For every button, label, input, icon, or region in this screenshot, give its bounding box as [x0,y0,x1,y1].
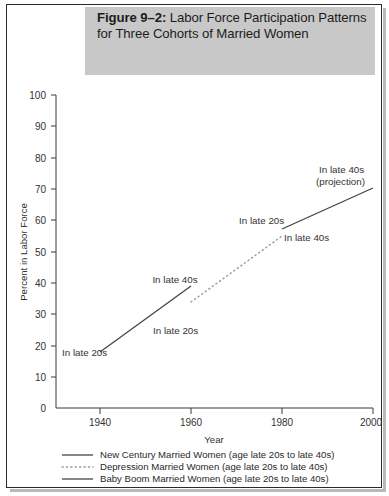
legend-label-baby-boom: Baby Boom Married Women (age late 20s to… [100,473,329,484]
y-axis-ticks [51,95,56,377]
annotation-new-century-late20s: In late 20s [62,347,107,358]
chart-canvas: 100 90 80 70 60 50 40 30 20 10 0 Percent… [0,0,389,496]
y-tick-label: 20 [35,341,47,352]
chart-legend: New Century Married Women (age late 20s … [62,449,334,484]
y-axis-tick-labels: 100 90 80 70 60 50 40 30 20 10 0 [29,90,46,414]
y-tick-label: 80 [35,153,47,164]
series-line-new-century [100,286,191,352]
legend-label-depression: Depression Married Women (age late 20s t… [100,461,328,472]
x-tick-label: 1940 [89,417,112,428]
x-tick-label: 1960 [180,417,203,428]
annotation-new-century-late40s: In late 40s [152,274,197,285]
axis-lines [56,95,373,408]
y-tick-label: 90 [35,121,47,132]
y-tick-label: 70 [35,184,47,195]
y-tick-label: 40 [35,278,47,289]
chart-svg: 100 90 80 70 60 50 40 30 20 10 0 Percent… [0,0,389,496]
x-axis-title: Year [204,434,224,445]
series-line-baby-boom [282,188,373,229]
series-line-depression [191,236,282,302]
annotation-babyboom-projection: (projection) [316,176,365,187]
annotation-babyboom-late40s: In late 40s [319,164,364,175]
annotation-depression-late20s: In late 20s [153,325,198,336]
y-tick-label: 50 [35,247,47,258]
y-tick-label: 100 [29,90,46,101]
y-axis-title: Percent in Labor Force [18,203,29,301]
figure-root: Figure 9–2: Labor Force Participation Pa… [0,0,389,496]
y-tick-label: 0 [40,403,46,414]
y-tick-label: 30 [35,309,47,320]
y-tick-label: 10 [35,372,47,383]
x-axis-tick-labels: 1940 1960 1980 2000 [89,417,383,428]
annotation-babyboom-late20s: In late 20s [239,215,284,226]
annotation-depression-late40s: In late 40s [284,232,329,243]
legend-label-new-century: New Century Married Women (age late 20s … [100,449,334,460]
x-tick-label: 2000 [360,417,383,428]
y-tick-label: 60 [35,215,47,226]
x-tick-label: 1980 [271,417,294,428]
x-axis-ticks [100,408,373,414]
